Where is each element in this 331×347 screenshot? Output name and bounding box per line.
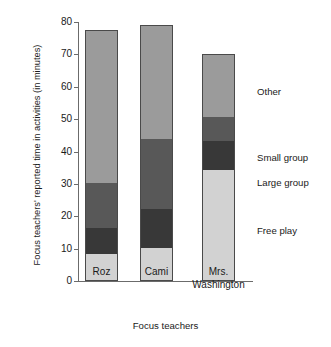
bar-segment-large-group [141, 209, 172, 248]
stacked-bar-chart: Focus teachers' reported time in activit… [0, 0, 331, 347]
legend-label-large-group: Large group [257, 178, 309, 188]
y-tick-label: 10 [61, 244, 72, 254]
y-tick-mark [74, 216, 78, 217]
bar-segment-small-group [86, 183, 117, 228]
y-tick-label: 30 [61, 179, 72, 189]
y-tick-label: 40 [61, 147, 72, 157]
y-tick-label: 80 [61, 17, 72, 27]
y-tick-mark [74, 87, 78, 88]
y-tick-mark [74, 119, 78, 120]
bar-segment-other [141, 25, 172, 139]
bar-segment-free-play [203, 170, 234, 280]
y-axis-line [78, 22, 79, 281]
x-axis-title: Focus teachers [78, 320, 253, 331]
bar-segment-large-group [203, 141, 234, 170]
y-tick-label: 60 [61, 82, 72, 92]
bar-mrs-washington [202, 54, 235, 281]
x-category-label-line: Mrs. [174, 266, 264, 279]
y-tick-mark [74, 22, 78, 23]
legend-label-free-play: Free play [257, 226, 297, 236]
bar-roz [85, 30, 118, 281]
y-tick-mark [74, 281, 78, 282]
x-category-label-line: Washington [174, 279, 264, 292]
bar-cami [140, 25, 173, 281]
y-tick-label: 70 [61, 49, 72, 59]
bar-segment-large-group [86, 228, 117, 254]
bar-segment-other [203, 54, 234, 116]
bar-segment-other [86, 30, 117, 183]
y-tick-mark [74, 184, 78, 185]
bar-segment-small-group [141, 139, 172, 209]
y-axis-title: Focus teachers' reported time in activit… [32, 20, 42, 290]
y-tick-mark [74, 152, 78, 153]
bar-segment-small-group [203, 117, 234, 141]
legend-label-small-group: Small group [257, 153, 308, 163]
legend-label-other: Other [257, 87, 281, 97]
y-tick-mark [74, 54, 78, 55]
x-category-label: Mrs.Washington [174, 266, 264, 291]
y-tick-label: 20 [61, 211, 72, 221]
y-tick-label: 50 [61, 114, 72, 124]
plot-area: 01020304050607080 [78, 22, 253, 281]
y-tick-mark [74, 249, 78, 250]
